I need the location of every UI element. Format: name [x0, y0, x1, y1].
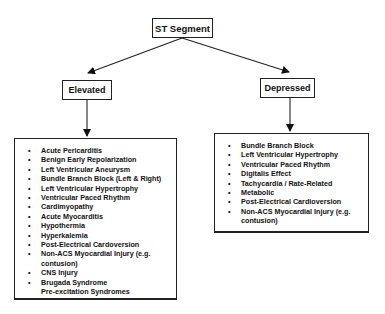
list-item: •Hyperkalemia [25, 231, 170, 240]
depressed-causes-list: •Bundle Branch Block•Left Ventricular Hy… [214, 133, 369, 233]
list-item: •Digitalis Effect [225, 169, 362, 178]
list-item-text: Tachycardia / Rate-Related [241, 179, 332, 188]
node-depressed-label: Depressed [264, 83, 310, 93]
bullet-icon: • [228, 169, 231, 178]
arrow-root-to-elevated [88, 38, 182, 73]
list-item: •Post-Electrical Cardoversion [25, 240, 170, 249]
list-item: •Ventricular Paced Rhythm [25, 193, 170, 202]
bullet-icon: • [28, 202, 31, 211]
list-item-text: Ventricular Paced Rhythm [41, 193, 130, 202]
bullet-icon: • [28, 231, 31, 240]
list-item-text: Left Ventricular Aneurysm [41, 165, 130, 174]
list-item: •Pre-excitation Syndromes [25, 287, 170, 296]
list-item: •Acute Myocarditis [25, 212, 170, 221]
list-item-text: Cardimyopathy [41, 202, 93, 211]
list-item-text: Pre-excitation Syndromes [41, 287, 130, 296]
list-item-text: Hypothermia [41, 221, 85, 230]
list-item: •Tachycardia / Rate-Related [225, 179, 362, 188]
bullet-icon: • [28, 221, 31, 230]
list-item-text: Ventricular Paced Rhythm [241, 160, 330, 169]
bullet-icon: • [28, 212, 31, 221]
bullet-icon: • [28, 268, 31, 277]
list-item: •CNS Injury [25, 268, 170, 277]
bullet-icon: • [228, 179, 231, 188]
list-item-text: Non-ACS Myocardial Injury (e.g. contusio… [241, 207, 350, 225]
list-item: •Left Ventricular Aneurysm [25, 165, 170, 174]
elevated-causes-list: •Acute Pericarditis•Benign Early Repolar… [14, 138, 177, 300]
root-node-st-segment: ST Segment [152, 18, 213, 38]
elevated-causes-items: •Acute Pericarditis•Benign Early Repolar… [25, 146, 170, 297]
list-item: •Metabolic [225, 188, 362, 197]
list-item-text: Bundle Branch Block [241, 141, 314, 150]
root-node-label: ST Segment [155, 23, 210, 34]
list-item: •Bundle Branch Block [225, 141, 362, 150]
list-item: •Left Ventricular Hypertrophy [225, 150, 362, 159]
list-item-text: Post-Electrical Cardoversion [41, 240, 139, 249]
node-depressed: Depressed [260, 78, 315, 98]
list-item-text: Benign Early Repolarization [41, 155, 136, 164]
bullet-icon: • [28, 165, 31, 174]
bullet-icon: • [28, 278, 31, 287]
bullet-icon: • [228, 188, 231, 197]
bullet-icon: • [28, 249, 31, 258]
arrow-root-to-depressed [182, 38, 289, 72]
list-item-text: Brugada Syndrome [41, 278, 107, 287]
list-item: •Bundle Branch Block (Left & Right) [25, 174, 170, 183]
list-item-text: Acute Pericarditis [41, 146, 102, 155]
list-item-text: Left Ventricular Hypertrophy [241, 150, 338, 159]
bullet-icon: • [28, 193, 31, 202]
list-item-text: Digitalis Effect [241, 169, 291, 178]
depressed-causes-items: •Bundle Branch Block•Left Ventricular Hy… [225, 141, 362, 226]
list-item: •Non-ACS Myocardial Injury (e.g. contusi… [225, 207, 362, 226]
list-item: •Ventricular Paced Rhythm [225, 160, 362, 169]
list-item-text: Non-ACS Myocardial Injury (e.g. contusio… [41, 249, 150, 267]
bullet-icon: • [228, 160, 231, 169]
bullet-icon: • [228, 207, 231, 216]
bullet-icon: • [228, 141, 231, 150]
list-item: •Acute Pericarditis [25, 146, 170, 155]
bullet-icon: • [228, 197, 231, 206]
list-item: •Left Ventricular Hypertrophy [25, 184, 170, 193]
list-item: •Brugada Syndrome [25, 278, 170, 287]
bullet-icon: • [28, 174, 31, 183]
node-elevated-label: Elevated [68, 85, 105, 95]
list-item: •Non-ACS Myocardial Injury (e.g. contusi… [25, 249, 170, 268]
list-item-text: Left Ventricular Hypertrophy [41, 184, 138, 193]
list-item: •Benign Early Repolarization [25, 155, 170, 164]
bullet-icon: • [228, 150, 231, 159]
list-item: •Cardimyopathy [25, 202, 170, 211]
bullet-icon: • [28, 155, 31, 164]
bullet-icon: • [28, 146, 31, 155]
list-item: •Hypothermia [25, 221, 170, 230]
bullet-icon: • [28, 184, 31, 193]
node-elevated: Elevated [62, 80, 112, 100]
list-item-text: Hyperkalemia [41, 231, 88, 240]
list-item-text: Post-Electrical Cardioversion [241, 197, 341, 206]
list-item-text: CNS Injury [41, 268, 78, 277]
list-item-text: Metabolic [241, 188, 274, 197]
list-item: •Post-Electrical Cardioversion [225, 197, 362, 206]
list-item-text: Bundle Branch Block (Left & Right) [41, 174, 161, 183]
bullet-icon: • [28, 240, 31, 249]
list-item-text: Acute Myocarditis [41, 212, 103, 221]
